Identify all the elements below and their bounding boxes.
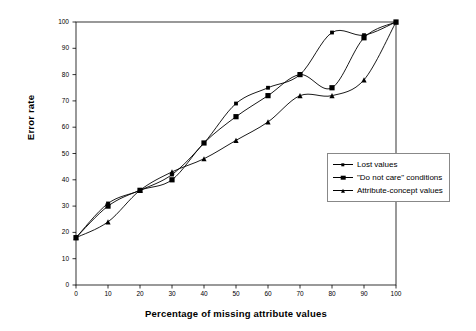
data-point-marker — [169, 177, 174, 182]
series-line — [76, 22, 396, 238]
data-point-marker — [329, 85, 334, 90]
legend-label: Attribute-concept values — [354, 186, 443, 195]
data-point-marker — [234, 102, 238, 106]
legend-item: Attribute-concept values — [332, 184, 443, 197]
chart-figure: Error rate Percentage of missing attribu… — [0, 0, 476, 331]
legend-item: Lost values — [332, 158, 443, 171]
legend-item: "Do not care" conditions — [332, 171, 443, 184]
data-point-marker — [233, 114, 238, 119]
data-point-marker — [169, 169, 174, 174]
legend-marker-icon — [332, 160, 354, 170]
data-point-marker — [330, 31, 334, 35]
legend-label: "Do not care" conditions — [354, 173, 442, 182]
data-point-marker — [201, 156, 206, 161]
data-point-marker — [233, 138, 238, 143]
series-line — [76, 22, 396, 238]
chart-legend: Lost values"Do not care" conditionsAttri… — [327, 153, 450, 202]
series-line — [76, 22, 396, 238]
data-point-marker — [105, 204, 110, 209]
data-point-marker — [201, 140, 206, 145]
legend-marker-icon — [332, 173, 354, 183]
data-point-marker — [266, 86, 270, 90]
series-lost-values — [74, 20, 398, 239]
data-point-marker — [297, 72, 302, 77]
data-point-marker — [297, 93, 302, 98]
data-point-marker — [265, 93, 270, 98]
series--do-not-care-conditions — [73, 19, 398, 240]
legend-marker-icon — [332, 186, 354, 196]
data-point-marker — [361, 35, 366, 40]
legend-label: Lost values — [354, 160, 397, 169]
series-attribute-concept-values — [73, 19, 398, 240]
data-series — [73, 19, 398, 240]
